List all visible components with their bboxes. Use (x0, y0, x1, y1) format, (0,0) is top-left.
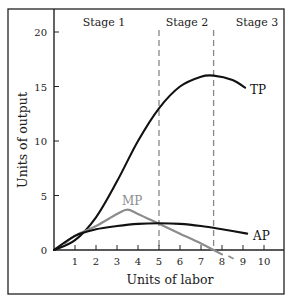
stage-label: Stage 3 (236, 16, 279, 29)
y-tick-label: 15 (34, 82, 47, 93)
tp-label: TP (250, 83, 266, 97)
x-tick-label: 3 (114, 256, 120, 267)
x-tick-label: 6 (177, 256, 183, 267)
stage-label: Stage 2 (166, 16, 209, 29)
x-tick-label: 7 (198, 256, 204, 267)
x-axis-title: Units of labor (126, 272, 213, 287)
x-tick-label: 2 (93, 256, 99, 267)
mp-curve-tail (228, 256, 233, 259)
y-tick-label: 5 (41, 191, 47, 202)
x-tick-label: 8 (219, 256, 225, 267)
chart-frame (8, 9, 284, 294)
curves (54, 75, 247, 258)
stage-label: Stage 1 (83, 16, 126, 29)
production-stages-chart: 1234567891005101520 Units of laborUnits … (0, 0, 290, 301)
x-tick-label: 9 (240, 256, 246, 267)
ap-curve (54, 223, 247, 250)
y-tick-label: 20 (34, 27, 47, 38)
y-axis-title: Units of output (15, 92, 30, 188)
ap-label: AP (252, 229, 270, 243)
y-tick-label: 0 (41, 245, 47, 256)
mp-label: MP (122, 194, 142, 208)
x-tick-label: 10 (258, 256, 271, 267)
y-tick-label: 10 (34, 136, 47, 147)
x-tick-label: 5 (156, 256, 162, 267)
x-tick-label: 4 (135, 256, 141, 267)
x-tick-label: 1 (72, 256, 78, 267)
axes: 1234567891005101520 (34, 9, 284, 267)
stage-dividers (159, 30, 214, 250)
